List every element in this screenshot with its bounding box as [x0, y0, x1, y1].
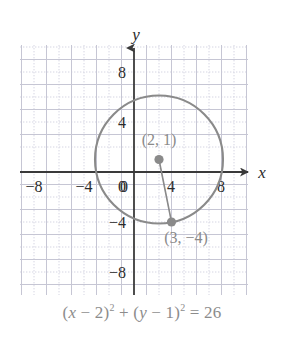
- equation-variable-y: y: [139, 303, 147, 322]
- equation-minus-1: − 1: [147, 303, 174, 322]
- x-axis-label: x: [257, 163, 266, 182]
- x-tick-label-8: 8: [217, 178, 225, 195]
- equation-plus: +: [115, 303, 134, 322]
- equation-minus-2: − 2: [76, 303, 103, 322]
- circle-graph-figure: y x −8 −4 0 4 8 8 4 0 −4 −8 (2, 1) (3, −…: [0, 0, 284, 345]
- x-tick-label--8: −8: [25, 178, 42, 195]
- equation-variable-x: x: [68, 303, 76, 322]
- circle-equation: (x − 2)2 + (y − 1)2 = 26: [0, 303, 284, 323]
- x-tick-label-4: 4: [167, 178, 175, 195]
- y-tick-label--8: −8: [109, 264, 126, 281]
- equation-equals-26: = 26: [185, 303, 221, 322]
- x-tick-label--4: −4: [75, 178, 92, 195]
- circle-point-label: (3, −4): [164, 229, 208, 247]
- y-axis-label: y: [130, 25, 140, 44]
- coordinate-plane: y x −8 −4 0 4 8 8 4 0 −4 −8 (2, 1) (3, −…: [0, 0, 284, 345]
- y-tick-label--4: −4: [109, 214, 126, 231]
- y-tick-label-4: 4: [118, 114, 126, 131]
- circle-point-marker: [167, 217, 176, 226]
- y-tick-label-8: 8: [118, 64, 126, 81]
- center-point-marker: [154, 155, 163, 164]
- y-tick-label-0: 0: [118, 178, 126, 195]
- center-point-label: (2, 1): [142, 131, 177, 149]
